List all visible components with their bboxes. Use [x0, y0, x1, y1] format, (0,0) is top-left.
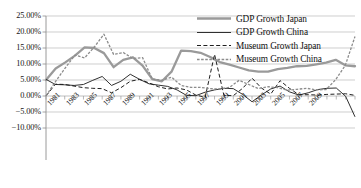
- legend-line-swatch-icon: [196, 40, 232, 51]
- y-axis-tick-label: 20.00%: [0, 27, 41, 36]
- y-axis-tick-label: −5.00%: [0, 107, 41, 116]
- y-axis-tick-label: 5.00%: [0, 75, 41, 84]
- legend-line-swatch-icon: [196, 13, 232, 24]
- y-axis-tick-label: 15.00%: [0, 43, 41, 52]
- legend-line-swatch-icon: [196, 27, 232, 38]
- y-axis-tick-label: 10.00%: [0, 59, 41, 68]
- y-axis-tick-label: −10.00%: [0, 123, 41, 132]
- legend-item-label: GDP Growth Japan: [236, 14, 307, 24]
- legend-item-label: Museum Growth China: [236, 54, 322, 64]
- legend-item[interactable]: Museum Growth China: [196, 53, 354, 67]
- chart-legend: GDP Growth JapanGDP Growth ChinaMuseum G…: [196, 12, 354, 66]
- y-axis-tick-label: 25.00%: [0, 11, 41, 20]
- line-chart: 25.00%20.00%15.00%10.00%5.00%0.00%−5.00%…: [0, 0, 361, 188]
- legend-line-swatch-icon: [196, 54, 232, 65]
- legend-item[interactable]: GDP Growth Japan: [196, 12, 354, 26]
- y-axis-tick-label: 0.00%: [0, 91, 41, 100]
- legend-item[interactable]: GDP Growth China: [196, 26, 354, 40]
- legend-item-label: GDP Growth China: [236, 27, 308, 37]
- legend-item-label: Museum Growth Japan: [236, 41, 321, 51]
- legend-item[interactable]: Museum Growth Japan: [196, 39, 354, 53]
